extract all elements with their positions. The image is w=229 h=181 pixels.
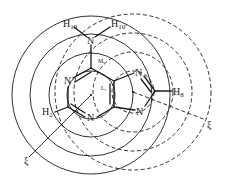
atom-h8: H8 <box>173 86 184 99</box>
bond-n9-c4 <box>114 107 135 110</box>
atom-h2: H2 <box>42 106 53 119</box>
atom-h10: H10 <box>63 18 78 31</box>
atom-n1: N <box>64 75 71 86</box>
atom-n3: N <box>87 112 94 123</box>
bond-c4-n3 <box>97 107 114 117</box>
atom-n6: N <box>87 35 94 46</box>
adenine-ring-current-diagram: N N N N N H10 H10' H8 H2 M, L, ξ ξ <box>0 0 229 181</box>
bond-c6-c5 <box>91 68 114 81</box>
atom-n9: N <box>136 106 143 117</box>
bond-c5-n7 <box>114 73 134 81</box>
molecule-bonds <box>55 27 172 117</box>
six-ring-center-dot <box>90 94 92 96</box>
ring-label-l: L, <box>101 85 107 91</box>
five-ring-center-dot <box>132 91 134 93</box>
five-ring-axis-label: ξ <box>207 119 212 131</box>
atom-h10-prime: H10' <box>111 18 127 31</box>
bond-c8-n9 <box>145 91 155 106</box>
five-ring-axis <box>133 92 206 120</box>
ring-label-m: M, <box>98 58 105 64</box>
six-ring-axis-label: ξ <box>24 155 29 167</box>
atom-n7: N <box>135 67 142 78</box>
bond-n7-c8-double <box>141 79 151 92</box>
